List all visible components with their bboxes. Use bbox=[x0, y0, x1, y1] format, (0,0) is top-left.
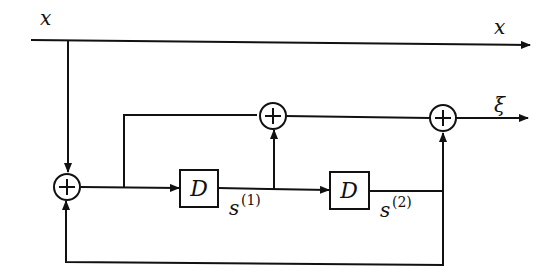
output-xi-label: ξ bbox=[494, 93, 506, 117]
delay-block-2: D bbox=[330, 172, 369, 209]
output-x-label: x bbox=[494, 15, 505, 39]
adder-output bbox=[430, 105, 456, 131]
input-x-line bbox=[31, 40, 530, 45]
block-diagram: D D x x ξ s (1) s (2) bbox=[0, 0, 558, 280]
delay2-label: D bbox=[339, 178, 358, 203]
delay1-label: D bbox=[189, 176, 208, 201]
state2-label: s bbox=[380, 198, 390, 222]
state1-label: s bbox=[229, 196, 239, 220]
state2-line bbox=[369, 133, 443, 191]
adder-input bbox=[54, 174, 80, 200]
middle-to-output-line bbox=[285, 116, 430, 118]
delay-block-1: D bbox=[180, 170, 218, 207]
input-x-label: x bbox=[40, 6, 51, 30]
state1-superscript: (1) bbox=[241, 192, 261, 208]
adder-middle bbox=[260, 103, 286, 129]
state2-superscript: (2) bbox=[392, 194, 412, 210]
adder-to-delay1-line bbox=[81, 187, 179, 188]
